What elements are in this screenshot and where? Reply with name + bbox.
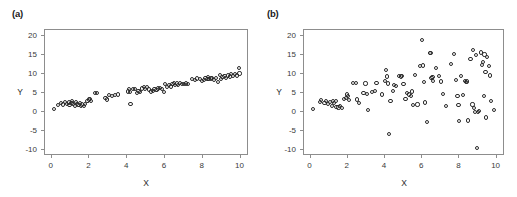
y-tick-label: 15 xyxy=(11,49,37,58)
data-point xyxy=(449,62,453,66)
data-point xyxy=(365,92,369,96)
data-point xyxy=(400,74,404,78)
x-tick-label: 0 xyxy=(41,161,61,170)
data-point xyxy=(391,89,395,93)
data-point xyxy=(340,106,344,110)
data-point xyxy=(485,55,489,59)
data-point xyxy=(409,94,413,98)
data-point xyxy=(388,99,392,103)
data-point xyxy=(459,74,463,78)
y-tick-mark xyxy=(41,35,44,36)
data-point xyxy=(471,48,475,52)
data-point xyxy=(366,108,370,112)
y-tick-label: 20 xyxy=(11,30,37,39)
x-tick-mark xyxy=(421,155,422,158)
data-point xyxy=(468,57,472,61)
y-tick-mark xyxy=(300,92,303,93)
data-point xyxy=(413,73,417,77)
data-point xyxy=(186,82,190,86)
x-tick-mark xyxy=(310,155,311,158)
x-tick-label: 6 xyxy=(154,161,174,170)
x-tick-mark xyxy=(347,155,348,158)
y-tick-mark xyxy=(41,149,44,150)
panel-a: (a) 20151050-5-100246810 X Y xyxy=(0,0,258,197)
y-tick-label: 10 xyxy=(270,68,296,77)
data-point xyxy=(475,146,479,150)
data-point xyxy=(423,100,427,104)
data-point xyxy=(420,38,424,42)
y-tick-mark xyxy=(41,130,44,131)
data-point xyxy=(347,98,351,102)
y-tick-label: 20 xyxy=(270,30,296,39)
panel-a-plot-area xyxy=(45,30,247,154)
data-point xyxy=(434,66,438,70)
y-tick-label: 0 xyxy=(11,107,37,116)
x-tick-mark xyxy=(496,155,497,158)
data-point xyxy=(488,73,492,77)
y-tick-mark xyxy=(300,111,303,112)
data-point xyxy=(484,115,488,119)
y-tick-label: -5 xyxy=(11,126,37,135)
y-tick-mark xyxy=(300,130,303,131)
x-tick-label: 2 xyxy=(337,161,357,170)
scatter-plot-figure: (a) 20151050-5-100246810 X Y (b) 2015105… xyxy=(0,0,517,197)
data-point xyxy=(311,107,315,111)
data-point xyxy=(357,101,361,105)
data-point xyxy=(237,71,241,75)
data-point xyxy=(95,91,99,95)
panel-b-y-axis-title: Y xyxy=(272,87,286,97)
panel-a-x-axis-title: X xyxy=(126,178,166,188)
data-point xyxy=(457,119,461,123)
y-tick-label: 0 xyxy=(270,107,296,116)
data-point xyxy=(466,118,470,122)
x-tick-mark xyxy=(51,155,52,158)
y-tick-mark xyxy=(41,73,44,74)
panel-a-y-axis-title: Y xyxy=(13,87,27,97)
panel-b-plot-frame xyxy=(303,29,504,155)
x-tick-label: 8 xyxy=(192,161,212,170)
data-point xyxy=(411,103,415,107)
data-point xyxy=(410,89,414,93)
data-point xyxy=(477,109,481,113)
data-point xyxy=(162,90,166,94)
data-point xyxy=(237,66,241,70)
data-point xyxy=(89,99,93,103)
x-tick-mark xyxy=(384,155,385,158)
x-tick-mark xyxy=(164,155,165,158)
data-point xyxy=(489,99,493,103)
x-tick-label: 6 xyxy=(411,161,431,170)
data-point xyxy=(439,79,443,83)
panel-a-plot-frame xyxy=(44,29,248,155)
y-tick-label: 15 xyxy=(270,49,296,58)
data-point xyxy=(363,81,367,85)
data-point xyxy=(384,68,388,72)
y-tick-mark xyxy=(300,73,303,74)
data-point xyxy=(474,53,478,57)
data-point xyxy=(441,92,445,96)
data-point xyxy=(431,79,435,83)
data-point xyxy=(387,132,391,136)
data-point xyxy=(461,93,465,97)
panel-b-label: (b) xyxy=(267,8,279,19)
y-tick-label: -10 xyxy=(11,145,37,154)
y-tick-mark xyxy=(41,54,44,55)
x-tick-label: 0 xyxy=(300,161,320,170)
data-point xyxy=(455,94,459,98)
data-point xyxy=(403,97,407,101)
data-point xyxy=(422,80,426,84)
data-point xyxy=(428,51,432,55)
data-point xyxy=(492,108,496,112)
x-tick-label: 4 xyxy=(116,161,136,170)
data-point xyxy=(437,74,441,78)
data-point xyxy=(385,74,389,78)
data-point xyxy=(354,81,358,85)
data-point xyxy=(482,94,486,98)
x-tick-mark xyxy=(88,155,89,158)
panel-b-plot-area xyxy=(304,30,503,154)
data-point xyxy=(401,82,405,86)
y-tick-mark xyxy=(300,149,303,150)
data-point xyxy=(386,81,390,85)
x-tick-label: 10 xyxy=(230,161,250,170)
data-point xyxy=(465,79,469,83)
data-point xyxy=(456,103,460,107)
